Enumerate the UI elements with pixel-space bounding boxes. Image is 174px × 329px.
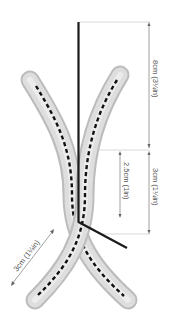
dimension-label-rod-upper: 8cm (3¼in) [151,60,160,98]
dimension-rod-upper: 8cm (3¼in) [148,22,161,148]
dimension-label-tube-leg: 3cm (1¼in) [11,238,41,273]
dimension-label-rod-inner: 2.5cm (1in) [122,162,131,200]
dimension-rod-inner: 2.5cm (1in) [119,151,132,218]
crossed-tubes-diagram: 8cm (3¼in) 3cm (1¼in) 2.5cm (1in) 3cm (1… [0,0,174,329]
dimension-rod-lower: 3cm (1¼in) [148,151,161,234]
dimension-label-rod-lower: 3cm (1¼in) [151,168,160,206]
